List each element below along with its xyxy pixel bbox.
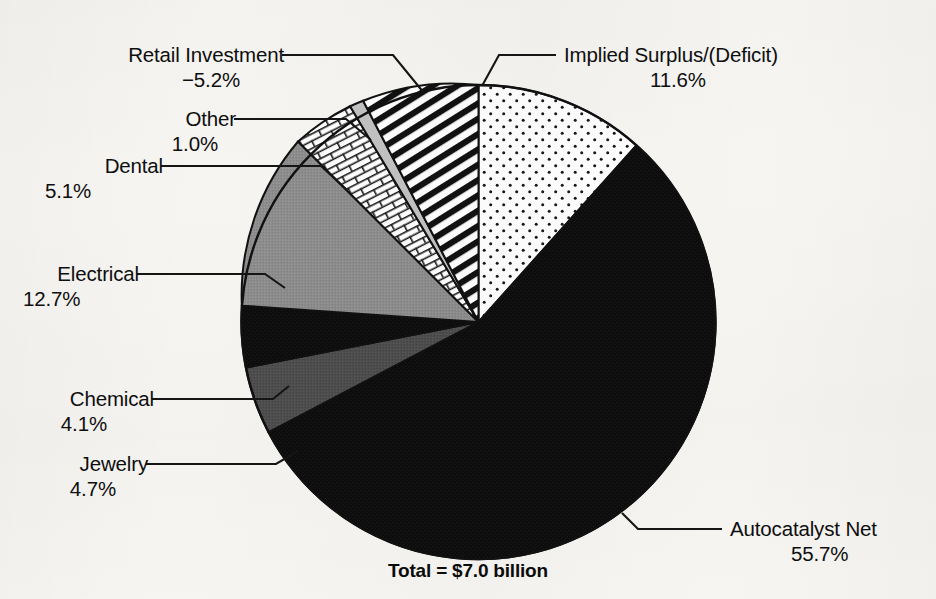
callout-chemical-name: Chemical xyxy=(0,386,154,411)
callout-implied-surplus: Implied Surplus/(Deficit) 11.6% xyxy=(564,42,936,92)
callout-autocatalyst: Autocatalyst Net 55.7% xyxy=(730,516,936,566)
callout-dental: Dental 5.1% xyxy=(0,153,163,203)
callout-electrical-name: Electrical xyxy=(0,261,139,286)
callout-electrical-value: 12.7% xyxy=(0,286,139,311)
leader-line-retail-investment xyxy=(282,55,424,93)
callout-implied-surplus-value: 11.6% xyxy=(564,67,936,92)
callout-jewelry-name: Jewelry xyxy=(0,451,148,476)
leader-line-autocatalyst xyxy=(622,513,722,529)
callout-other-name: Other xyxy=(0,106,236,131)
callout-jewelry: Jewelry 4.7% xyxy=(0,451,148,501)
pie-slices-group xyxy=(241,84,715,560)
callout-chemical: Chemical 4.1% xyxy=(0,386,154,436)
total-caption: Total = $7.0 billion xyxy=(0,560,936,582)
callout-chemical-value: 4.1% xyxy=(0,411,154,436)
callout-electrical: Electrical 12.7% xyxy=(0,261,139,311)
callout-dental-value: 5.1% xyxy=(0,178,163,203)
leader-line-jewelry xyxy=(146,451,298,464)
callout-retail-investment: Retail Investment −5.2% xyxy=(0,42,284,92)
pie-chart-figure: Retail Investment −5.2% Other 1.0% Denta… xyxy=(0,0,936,599)
callout-other: Other 1.0% xyxy=(0,106,236,156)
callout-retail-investment-value: −5.2% xyxy=(0,67,284,92)
callout-implied-surplus-name: Implied Surplus/(Deficit) xyxy=(564,42,936,67)
leader-line-implied-surplus xyxy=(482,55,556,86)
callout-autocatalyst-name: Autocatalyst Net xyxy=(730,516,936,541)
callout-retail-investment-name: Retail Investment xyxy=(0,42,284,67)
callout-jewelry-value: 4.7% xyxy=(0,476,148,501)
callout-dental-name: Dental xyxy=(0,153,163,178)
